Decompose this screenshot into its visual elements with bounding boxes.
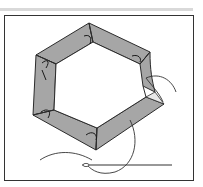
hexagon-sewing-illustration [0, 0, 203, 187]
